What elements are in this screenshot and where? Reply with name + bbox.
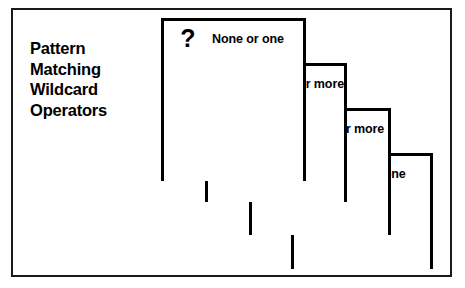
card-content-row: ? None or one bbox=[164, 21, 303, 57]
title-line-4: Operators bbox=[30, 100, 107, 121]
card-label: None or one bbox=[212, 32, 284, 46]
question-mark-wildcard-icon: ? bbox=[171, 26, 205, 51]
title-line-3: Wildcard bbox=[30, 79, 107, 100]
title-line-1: Pattern bbox=[30, 38, 107, 59]
pattern-matching-wildcard-figure: Pattern Matching Wildcard Operators ■ An… bbox=[0, 0, 465, 288]
wildcard-card-none-or-one: ? None or one bbox=[161, 18, 306, 181]
title-line-2: Matching bbox=[30, 59, 107, 80]
scan-artifact bbox=[14, 281, 244, 287]
figure-title: Pattern Matching Wildcard Operators bbox=[30, 38, 107, 120]
